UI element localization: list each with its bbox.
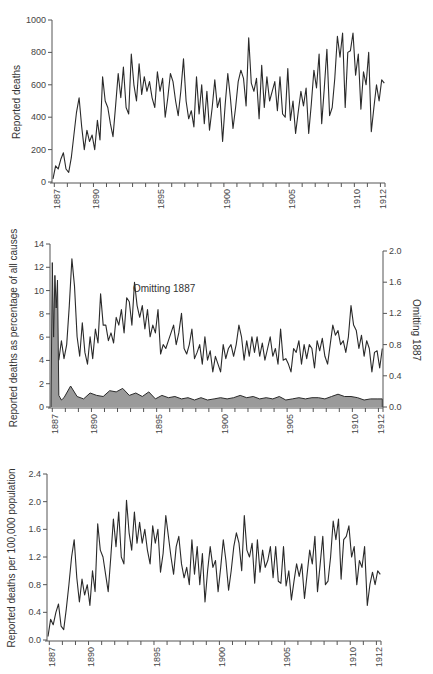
x-tick-label: 1912 — [374, 647, 384, 667]
y-tick-label: 600 — [31, 80, 46, 90]
figure: 02004006008001000 1887189018951900190519… — [0, 0, 433, 674]
y-tick-label: 800 — [31, 47, 46, 57]
y-tick-label: 0.8 — [28, 580, 41, 590]
y-tick-label: 0 — [39, 402, 44, 412]
right-y-tick-label: 1.6 — [389, 277, 402, 287]
y-tick-label: 0 — [41, 177, 46, 187]
y-tick-label: 2 — [39, 379, 44, 389]
x-tick-label: 1887 — [52, 189, 62, 209]
y-tick-label: 1.6 — [28, 524, 41, 534]
y-tick-label: 0.0 — [28, 635, 41, 645]
x-tick-label: 1905 — [285, 414, 295, 434]
right-y-tick-label: 1.2 — [389, 308, 402, 318]
c1-plot — [53, 33, 384, 179]
c2-right-axis-label: Omitting 1887 — [411, 299, 422, 362]
x-tick-label: 1887 — [50, 414, 60, 434]
x-tick-label: 1890 — [91, 189, 101, 209]
right-y-tick-label: 0.4 — [389, 371, 402, 381]
x-tick-label: 1895 — [156, 189, 166, 209]
x-tick-label: 1910 — [352, 189, 362, 209]
line-series — [59, 259, 383, 372]
y-tick-label: 2.0 — [28, 497, 41, 507]
c3-x-ticks: 1887189018951900190519101912 — [47, 641, 384, 667]
y-tick-label: 8 — [39, 309, 44, 319]
c2-left-y-ticks: 02468101214 — [34, 239, 50, 412]
x-tick-label: 1910 — [348, 647, 358, 667]
c3-plot — [48, 500, 380, 636]
y-tick-label: 0.4 — [28, 607, 41, 617]
x-tick-label: 1910 — [350, 414, 360, 434]
c1-y-ticks: 02004006008001000 — [26, 15, 52, 187]
y-tick-label: 10 — [34, 286, 44, 296]
x-tick-label: 1900 — [220, 414, 230, 434]
chart-reported-deaths: 02004006008001000 1887189018951900190519… — [11, 15, 388, 209]
c3-y-ticks: 0.00.40.81.21.62.02.4 — [28, 469, 47, 645]
y-tick-label: 6 — [39, 332, 44, 342]
c2-right-y-ticks: 0.00.40.81.21.62.0 — [383, 246, 402, 412]
y-tick-label: 1.2 — [28, 552, 41, 562]
y-tick-label: 12 — [34, 262, 44, 272]
x-tick-label: 1890 — [89, 414, 99, 434]
c1-y-axis-label: Reported deaths — [11, 65, 22, 139]
x-tick-label: 1912 — [378, 189, 388, 209]
x-tick-label: 1895 — [154, 414, 164, 434]
c2-annotation: Omitting 1887 — [133, 283, 196, 294]
c2-y-axis-label: Reported deaths as percentage of all cau… — [8, 229, 19, 427]
y-tick-label: 14 — [34, 239, 44, 249]
x-tick-label: 1895 — [152, 647, 162, 667]
x-tick-label: 1905 — [282, 647, 292, 667]
c1-x-ticks: 1887189018951900190519101912 — [52, 183, 388, 209]
chart-percentage-all-causes: 02468101214 0.00.40.81.21.62.0 188718901… — [8, 229, 422, 434]
x-tick-label: 1912 — [376, 414, 386, 434]
area-series — [51, 263, 382, 407]
line-series — [48, 500, 380, 636]
x-tick-label: 1900 — [222, 189, 232, 209]
y-tick-label: 400 — [31, 112, 46, 122]
y-tick-label: 200 — [31, 145, 46, 155]
right-y-tick-label: 2.0 — [389, 246, 402, 256]
c3-y-axis-label: Reported deaths per 100,000 population — [6, 468, 17, 647]
x-tick-label: 1905 — [287, 189, 297, 209]
right-y-tick-label: 0.0 — [389, 402, 402, 412]
x-tick-label: 1887 — [47, 647, 57, 667]
chart-deaths-per-100000: 0.00.40.81.21.62.02.4 188718901895190019… — [6, 468, 384, 667]
y-tick-label: 2.4 — [28, 469, 41, 479]
line-series — [53, 33, 384, 179]
right-y-tick-label: 0.8 — [389, 340, 402, 350]
y-tick-label: 1000 — [26, 15, 46, 25]
y-tick-label: 4 — [39, 355, 44, 365]
c2-plot — [51, 259, 382, 407]
x-tick-label: 1900 — [217, 647, 227, 667]
c2-x-ticks: 1887189018951900190519101912 — [50, 408, 386, 434]
x-tick-label: 1890 — [86, 647, 96, 667]
